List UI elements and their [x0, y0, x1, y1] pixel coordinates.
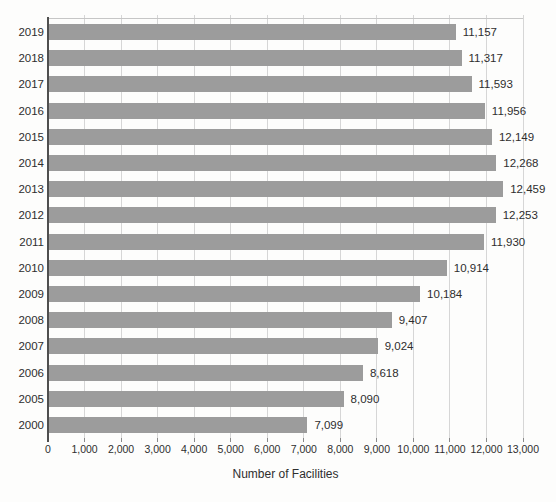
bar	[48, 286, 420, 302]
bar	[48, 155, 496, 171]
y-axis-label: 2013	[10, 181, 44, 197]
y-axis-label: 2008	[10, 312, 44, 328]
bar	[48, 207, 496, 223]
bar-value-label: 10,914	[454, 260, 489, 276]
bar	[48, 338, 378, 354]
bar-chart: Number of Facilities 01,0002,0003,0004,0…	[0, 0, 556, 502]
y-axis-label: 2016	[10, 103, 44, 119]
x-axis-tick-mark	[303, 438, 304, 442]
x-axis-tick-mark	[267, 438, 268, 442]
bar	[48, 50, 462, 66]
bar	[48, 312, 392, 328]
x-axis-tick-mark	[121, 438, 122, 442]
y-axis-label: 2019	[10, 24, 44, 40]
x-axis-tick-label: 13,000	[501, 443, 545, 455]
y-axis-label: 2006	[10, 365, 44, 381]
y-axis-line	[47, 17, 49, 442]
gridline	[523, 19, 524, 438]
bar-value-label: 11,317	[469, 50, 503, 66]
x-axis-tick-mark	[376, 438, 377, 442]
x-axis-tick-mark	[413, 438, 414, 442]
x-axis-tick-mark	[84, 438, 85, 442]
x-axis-tick-mark	[486, 438, 487, 442]
bar	[48, 260, 447, 276]
y-axis-label: 2015	[10, 129, 44, 145]
bar	[48, 417, 307, 433]
x-axis-tick-mark	[449, 438, 450, 442]
bar	[48, 76, 472, 92]
bar-value-label: 9,407	[399, 312, 428, 328]
bar-value-label: 12,253	[503, 207, 538, 223]
bar-value-label: 11,593	[479, 76, 513, 92]
bar-value-label: 12,149	[499, 129, 534, 145]
bar	[48, 103, 485, 119]
bar	[48, 129, 492, 145]
chart-page: Number of Facilities 01,0002,0003,0004,0…	[0, 0, 556, 502]
x-axis-title: Number of Facilities	[48, 467, 523, 481]
bar-value-label: 9,024	[385, 338, 414, 354]
y-axis-label: 2010	[10, 260, 44, 276]
x-axis-tick-mark	[157, 438, 158, 442]
y-axis-label: 2018	[10, 50, 44, 66]
bar-value-label: 11,956	[492, 103, 526, 119]
bar	[48, 391, 344, 407]
y-axis-label: 2005	[10, 391, 44, 407]
bar	[48, 24, 456, 40]
bar-value-label: 12,268	[503, 155, 538, 171]
x-axis-tick-mark	[523, 438, 524, 442]
bar	[48, 181, 503, 197]
bar-value-label: 11,157	[463, 24, 497, 40]
y-axis-label: 2011	[10, 234, 44, 250]
bar-value-label: 8,618	[370, 365, 399, 381]
x-axis-tick-mark	[194, 438, 195, 442]
x-axis-tick-mark	[230, 438, 231, 442]
y-axis-label: 2000	[10, 417, 44, 433]
bar-value-label: 12,459	[510, 181, 545, 197]
y-axis-label: 2007	[10, 338, 44, 354]
y-axis-label: 2012	[10, 207, 44, 223]
plot-top-border	[48, 18, 523, 19]
x-axis-tick-mark	[340, 438, 341, 442]
bar	[48, 234, 484, 250]
y-axis-label: 2017	[10, 76, 44, 92]
y-axis-label: 2014	[10, 155, 44, 171]
bar-value-label: 10,184	[427, 286, 462, 302]
y-axis-label: 2009	[10, 286, 44, 302]
bar	[48, 365, 363, 381]
bar-value-label: 11,930	[491, 234, 525, 250]
bar-value-label: 8,090	[351, 391, 380, 407]
bar-value-label: 7,099	[314, 417, 343, 433]
